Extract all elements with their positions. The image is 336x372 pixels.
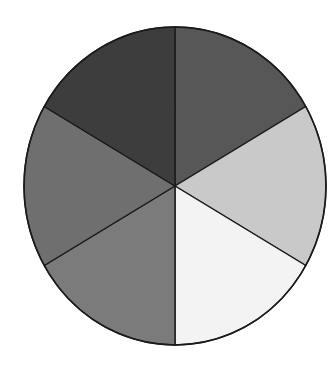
pie-slices: [24, 27, 326, 345]
pie-chart: [0, 0, 336, 372]
